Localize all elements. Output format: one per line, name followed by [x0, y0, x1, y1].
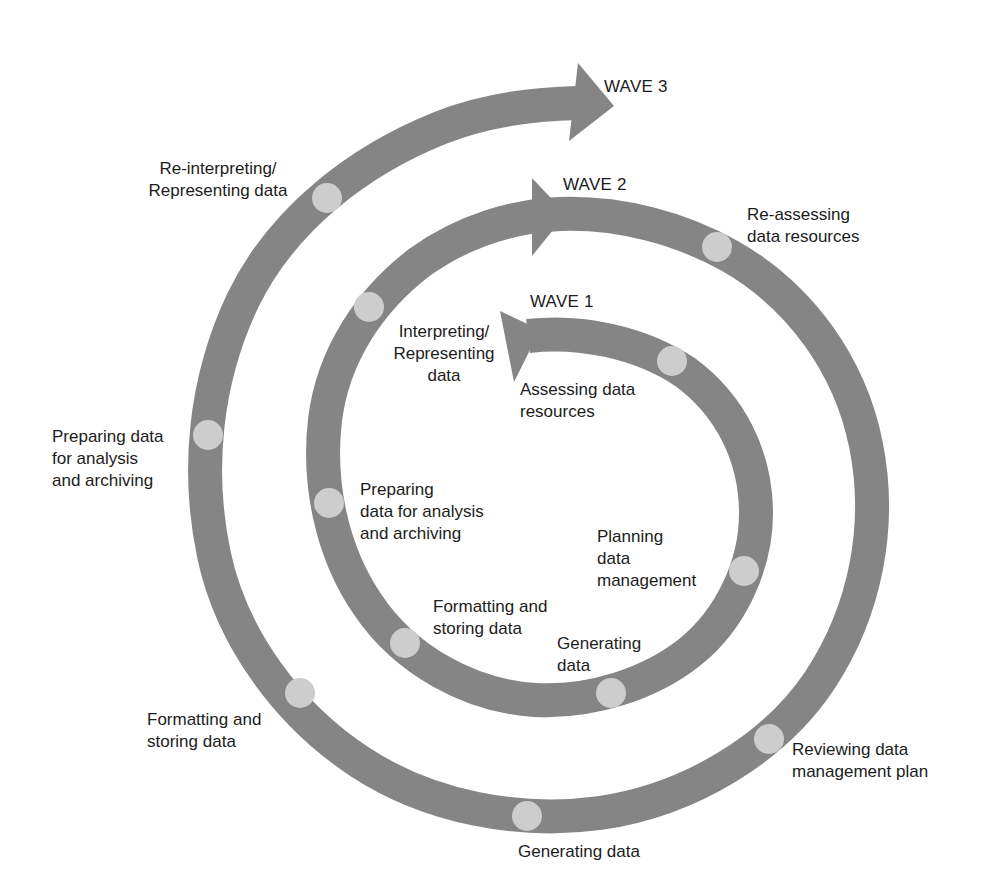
stage-dot — [596, 678, 626, 708]
wave2-title: WAVE 2 — [563, 175, 627, 195]
stage-label-preparing-data: Preparing data for analysis and archivin… — [360, 479, 484, 545]
wave3-arrowhead — [569, 63, 614, 141]
stage-dot — [193, 420, 223, 450]
wave3-title: WAVE 3 — [604, 77, 668, 97]
stage-dot — [729, 556, 759, 586]
stage-dot — [312, 183, 342, 213]
stage-dot — [657, 346, 687, 376]
stage-label-assessing-data-resources: Assessing data resources — [520, 379, 635, 423]
stage-label-reinterpreting-representing: Re-interpreting/ Representing data — [128, 158, 308, 202]
stage-label-formatting-storing-data-w2: Formatting and storing data — [147, 709, 261, 753]
stage-dot — [390, 628, 420, 658]
stage-label-preparing-data-w2: Preparing data for analysis and archivin… — [52, 426, 164, 492]
stage-label-generating-data-w2: Generating data — [518, 841, 640, 863]
stage-dot — [754, 724, 784, 754]
stage-dot — [512, 801, 542, 831]
stage-dot — [354, 292, 384, 322]
stage-label-reviewing-dmp: Reviewing data management plan — [792, 739, 928, 783]
stage-dot — [285, 678, 315, 708]
stage-label-generating-data: Generating data — [557, 633, 641, 677]
stage-dot — [314, 488, 344, 518]
stage-label-planning-data-management: Planning data management — [597, 526, 696, 592]
stage-label-reassessing-data-resources: Re-assessing data resources — [747, 204, 859, 248]
stage-label-formatting-storing-data: Formatting and storing data — [433, 596, 547, 640]
stage-dot — [702, 232, 732, 262]
stage-label-interpreting-representing: Interpreting/ Representing data — [384, 321, 504, 387]
wave2-arrowhead — [532, 178, 566, 256]
wave1-title: WAVE 1 — [530, 292, 594, 312]
